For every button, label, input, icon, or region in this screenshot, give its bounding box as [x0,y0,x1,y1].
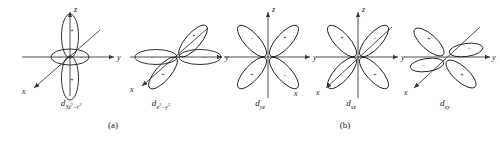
axes-d-yz [224,12,310,98]
axis-label-x: x [403,88,408,97]
axis-label-y: y [224,53,229,62]
signs-d-xz: + − − + [340,35,377,78]
svg-text:−: − [373,35,377,41]
svg-text:+: + [161,72,165,78]
orbital-d-xy: y x + − − + [403,24,496,97]
orbital-d-xz: y z x + − − + [315,5,405,98]
axis-label-x: x [129,85,134,94]
axis-label-y: y [116,53,121,62]
group-caption-b: (b) [330,120,360,130]
axis-label-z: z [361,5,366,14]
svg-text:−: − [421,62,425,68]
svg-text:+: + [283,35,287,41]
svg-text:+: + [250,72,254,78]
svg-text:−: − [250,35,254,41]
orbital-label-d-xy: dxy [417,98,473,110]
orbital-d-yz: y z x − + + − [224,5,317,98]
axis-label-x: x [315,88,320,97]
svg-text:+: + [373,72,377,78]
orbital-label-d-yz: dyz [232,98,288,110]
svg-text:−: − [467,45,471,51]
axis-label-z: z [271,5,276,14]
svg-text:+: + [460,72,464,78]
axis-label-x: x [21,87,26,96]
svg-text:+: + [192,33,196,39]
svg-text:+: + [427,36,431,42]
orbital-d-3z2-r2: y z x + + − − [21,5,121,100]
svg-text:+: + [70,28,74,34]
axes-d-3z2-r2 [22,12,114,96]
orbital-d-x2-y2: y x − − + + [129,21,229,94]
orbital-label-d-3z2-r2: d3z2−r2 [40,98,102,110]
svg-text:−: − [283,72,287,78]
axis-label-y: y [312,53,317,62]
signs-d-yz: − + + − [250,35,287,78]
axis-label-y: y [400,53,405,62]
group-caption-a: (a) [98,120,128,130]
svg-text:+: + [340,35,344,41]
orbital-label-d-x2-y2: dx2−y2 [130,98,192,110]
orbital-label-d-xz: dxz [323,98,379,110]
axes-d-xy [404,27,490,88]
svg-text:−: − [340,72,344,78]
d-orbital-figure: y z x + + − − y x − − [0,0,500,141]
axes-d-x2-y2 [130,28,222,86]
axis-label-x: x [293,89,298,98]
axis-label-y: y [491,53,496,62]
svg-text:+: + [70,77,74,83]
axis-label-z: z [73,5,78,14]
